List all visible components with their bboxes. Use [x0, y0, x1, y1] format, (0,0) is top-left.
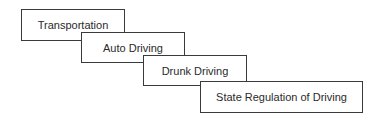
box-label: State Regulation of Driving — [216, 91, 347, 103]
box-label: Auto Driving — [103, 42, 163, 54]
hierarchy-diagram: Transportation Auto Driving Drunk Drivin… — [0, 0, 382, 119]
box-state-regulation-of-driving: State Regulation of Driving — [200, 81, 363, 113]
box-label: Transportation — [38, 19, 109, 31]
box-label: Drunk Driving — [162, 65, 229, 77]
